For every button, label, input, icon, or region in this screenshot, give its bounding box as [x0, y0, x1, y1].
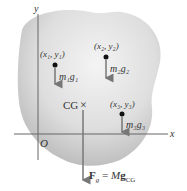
origin-label: O: [40, 138, 48, 149]
resultant-equals: =: [102, 169, 108, 181]
resultant-rhs-coef: M: [111, 169, 120, 181]
particle-1-weight-label: m₁g₁: [59, 72, 78, 82]
cg-label: CG: [63, 100, 78, 111]
particle-2-weight-label: m₂g₂: [110, 64, 129, 74]
center-of-gravity-diagram: [0, 0, 187, 191]
resultant-force-label: Fg = MgCG: [89, 170, 135, 184]
resultant-lhs-sub: g: [96, 176, 100, 184]
particle-3-weight-label: m₃g₃: [126, 120, 145, 130]
cg-marker-icon: ×: [80, 99, 87, 111]
resultant-lhs: F: [89, 169, 96, 181]
x-axis-label: x: [170, 129, 174, 139]
y-axis-label: y: [34, 4, 38, 14]
resultant-rhs-sub: CG: [126, 176, 136, 184]
particle-3-dot: [120, 112, 125, 117]
particle-1-coord-label: (x₁, y₁): [40, 50, 65, 59]
particle-1-dot: [53, 63, 58, 68]
particle-2-dot: [104, 55, 109, 60]
particle-3-coord-label: (x₃, y₃): [110, 100, 135, 109]
particle-2-coord-label: (x₂, y₂): [94, 42, 119, 51]
